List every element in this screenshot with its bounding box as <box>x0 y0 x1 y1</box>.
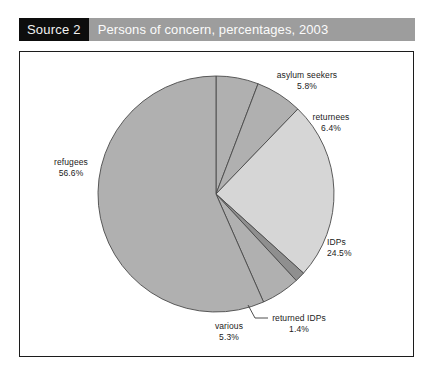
pie-label-idps: IDPs 24.5% <box>327 237 383 259</box>
pie-label-refugees-name: refugees <box>54 157 88 167</box>
pie-label-asylum-seekers-value: 5.8% <box>262 81 352 92</box>
pie-label-asylum-seekers: asylum seekers 5.8% <box>262 70 352 92</box>
pie-label-returnees-name: returnees <box>313 112 350 122</box>
source-label: Source 2 <box>19 18 89 41</box>
pie-label-returnees-value: 6.4% <box>300 123 362 134</box>
pie-label-returnees: returnees 6.4% <box>300 112 362 134</box>
pie-label-asylum-seekers-name: asylum seekers <box>277 70 337 80</box>
pie-label-returned-idps-value: 1.4% <box>264 324 334 335</box>
pie-label-refugees-value: 56.6% <box>33 168 109 179</box>
pie-label-returned-idps-name: returned IDPs <box>272 313 326 323</box>
pie-label-various-value: 5.3% <box>196 332 262 343</box>
pie-label-idps-value: 24.5% <box>327 248 383 259</box>
chart-title: Persons of concern, percentages, 2003 <box>89 18 415 41</box>
pie-label-returned-idps: returned IDPs 1.4% <box>264 313 334 335</box>
pie-label-various: various 5.3% <box>196 321 262 343</box>
pie-label-refugees: refugees 56.6% <box>33 157 109 179</box>
pie-label-idps-name: IDPs <box>327 237 346 247</box>
pie-label-various-name: various <box>215 321 243 331</box>
chart-header-bar: Source 2 Persons of concern, percentages… <box>19 18 415 41</box>
chart-frame <box>19 51 414 357</box>
